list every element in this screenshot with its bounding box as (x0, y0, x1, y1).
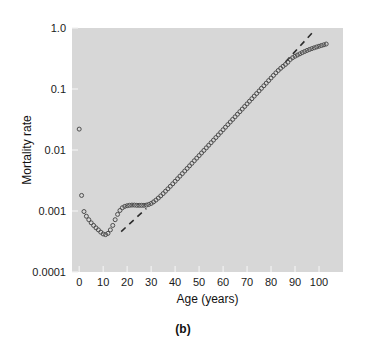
x-tick-label: 30 (145, 276, 157, 288)
y-tick-label: 0.1 (51, 83, 66, 95)
y-tick-label: 0.01 (45, 144, 66, 156)
y-tick-label: 0.0001 (32, 266, 66, 278)
figure-panel: 0.00010.0010.010.11.0 010203040506070809… (0, 0, 366, 342)
panel-caption: (b) (175, 322, 190, 336)
y-axis-title: Mortality rate (20, 115, 34, 185)
y-tick-label: 1.0 (51, 22, 66, 34)
y-tick-label: 0.001 (38, 205, 66, 217)
x-tick-label: 100 (310, 276, 328, 288)
x-tick-label: 0 (76, 276, 82, 288)
mortality-rate-chart: 0.00010.0010.010.11.0 010203040506070809… (0, 0, 366, 342)
x-tick-label: 20 (121, 276, 133, 288)
x-tick-label: 50 (193, 276, 205, 288)
x-tick-label: 40 (169, 276, 181, 288)
x-tick-label: 60 (217, 276, 229, 288)
x-axis-title: Age (years) (176, 292, 238, 306)
x-tick-label: 70 (241, 276, 253, 288)
x-tick-label: 90 (289, 276, 301, 288)
x-tick-label: 80 (265, 276, 277, 288)
x-tick-label: 10 (97, 276, 109, 288)
